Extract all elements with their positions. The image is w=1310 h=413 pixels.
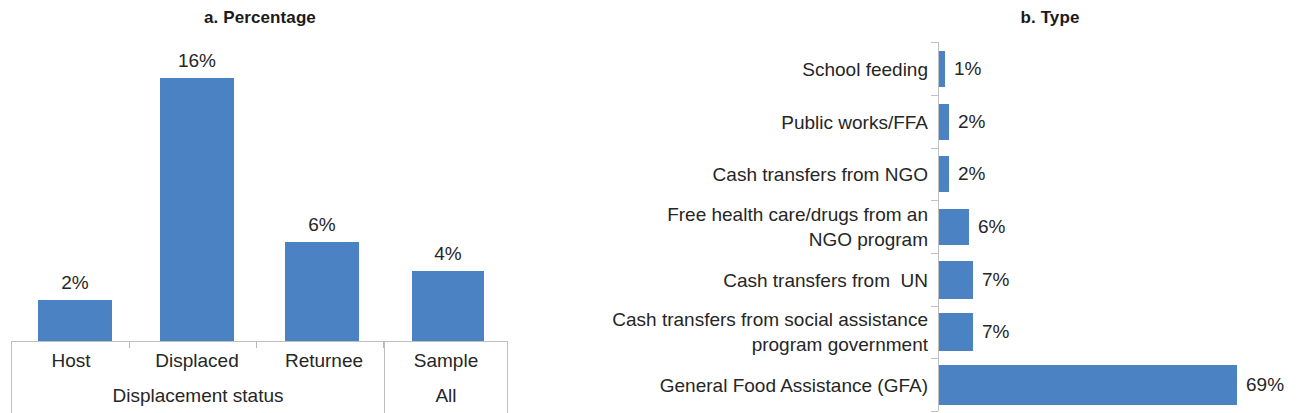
bar-cash-transfers-social-assistance[interactable] xyxy=(939,313,973,351)
bar-sample[interactable] xyxy=(412,271,484,341)
panel-a-title: a. Percentage xyxy=(0,8,520,28)
bar-public-works[interactable] xyxy=(939,104,949,140)
category-group-displacement: Host Displaced Returnee Displacement sta… xyxy=(12,342,384,413)
bar-displaced[interactable] xyxy=(160,78,234,341)
bar-value-school-feeding: 1% xyxy=(954,58,981,80)
chart-panel-a-percentage: a. Percentage 2% 16% 6% 4% Host Displace… xyxy=(0,0,540,413)
group-header-all: All xyxy=(385,379,507,413)
bar-value-displaced: 16% xyxy=(147,50,247,72)
chart-row-free-health-care: Free health care/drugs from an NGO progr… xyxy=(540,200,1310,253)
bar-value-cash-transfers-social-assistance: 7% xyxy=(982,321,1009,343)
chart-row-cash-transfers-ngo: Cash transfers from NGO 2% xyxy=(540,148,1310,200)
bar-value-cash-transfers-un: 7% xyxy=(982,269,1009,291)
bar-value-general-food-assistance: 69% xyxy=(1246,374,1284,396)
chart-row-general-food-assistance: General Food Assistance (GFA) 69% xyxy=(540,358,1310,411)
panel-a-category-table: Host Displaced Returnee Displacement sta… xyxy=(11,341,508,413)
bar-value-sample: 4% xyxy=(398,243,498,265)
chart-row-school-feeding: School feeding 1% xyxy=(540,42,1310,95)
category-label-cash-transfers-social-assistance: Cash transfers from social assistance pr… xyxy=(612,307,928,357)
panel-a-plot-area: 2% 16% 6% 4% xyxy=(11,40,508,341)
category-group-all: Sample All xyxy=(384,342,507,413)
category-label-cash-transfers-ngo: Cash transfers from NGO xyxy=(713,162,928,187)
category-label-sample: Sample xyxy=(385,342,507,379)
bar-free-health-care[interactable] xyxy=(939,209,969,245)
category-label-school-feeding: School feeding xyxy=(802,56,928,81)
bar-cash-transfers-ngo[interactable] xyxy=(939,156,949,192)
chart-row-cash-transfers-social-assistance: Cash transfers from social assistance pr… xyxy=(540,306,1310,358)
category-label-returnee: Returnee xyxy=(264,342,384,379)
category-label-public-works: Public works/FFA xyxy=(781,109,928,134)
bar-host[interactable] xyxy=(38,300,112,341)
bar-value-public-works: 2% xyxy=(958,111,985,133)
category-label-displaced: Displaced xyxy=(130,342,264,379)
bar-value-free-health-care: 6% xyxy=(978,216,1005,238)
chart-row-cash-transfers-un: Cash transfers from UN 7% xyxy=(540,253,1310,306)
bar-cash-transfers-un[interactable] xyxy=(939,261,973,299)
figure-root: a. Percentage 2% 16% 6% 4% Host Displace… xyxy=(0,0,1310,413)
category-label-free-health-care: Free health care/drugs from an NGO progr… xyxy=(667,202,928,252)
category-label-host: Host xyxy=(12,342,130,379)
panel-b-plot-area: School feeding 1% Public works/FFA 2% Ca… xyxy=(540,42,1310,411)
bar-value-cash-transfers-ngo: 2% xyxy=(958,163,985,185)
bar-returnee[interactable] xyxy=(285,242,359,341)
bar-general-food-assistance[interactable] xyxy=(939,365,1237,405)
chart-row-public-works: Public works/FFA 2% xyxy=(540,95,1310,148)
bar-school-feeding[interactable] xyxy=(939,51,945,87)
bar-value-host: 2% xyxy=(25,272,125,294)
category-label-general-food-assistance: General Food Assistance (GFA) xyxy=(660,372,928,397)
category-label-cash-transfers-un: Cash transfers from UN xyxy=(723,267,928,292)
axis-tick-b-7 xyxy=(931,411,938,412)
chart-panel-b-type: b. Type School feeding 1% Public works/F… xyxy=(540,0,1310,413)
panel-b-title: b. Type xyxy=(840,8,1260,28)
group-header-displacement-status: Displacement status xyxy=(12,379,384,413)
bar-value-returnee: 6% xyxy=(272,214,372,236)
